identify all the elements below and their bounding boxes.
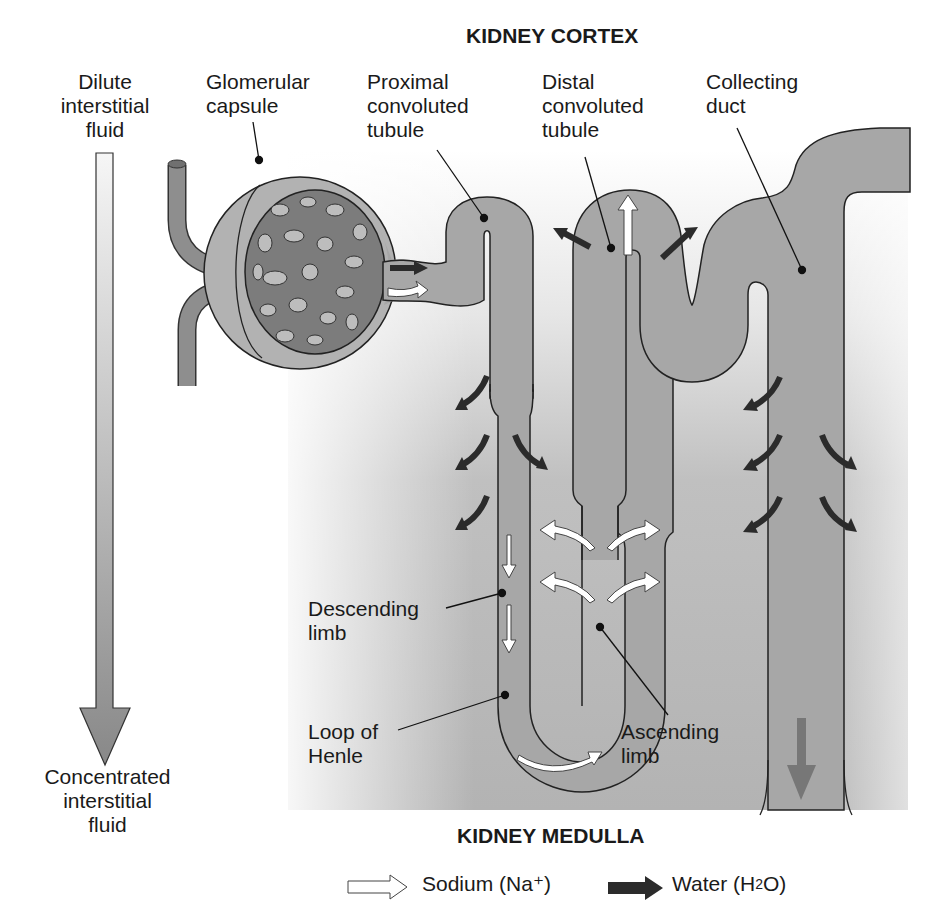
medulla-title: KIDNEY MEDULLA xyxy=(457,824,644,848)
descending-limb-label: Descending limb xyxy=(308,597,419,645)
distal-tubule-label: Distal convoluted tubule xyxy=(542,70,644,142)
loop-of-henle-label: Loop of Henle xyxy=(308,720,378,768)
legend-water: Water (H2O) xyxy=(672,872,786,896)
legend-sodium: Sodium (Na⁺) xyxy=(422,872,551,896)
cortex-title: KIDNEY CORTEX xyxy=(466,24,638,48)
proximal-tubule-label: Proximal convoluted tubule xyxy=(367,70,469,142)
dilute-fluid-label: Dilute interstitial fluid xyxy=(40,70,170,142)
collecting-duct-label: Collecting duct xyxy=(706,70,798,118)
glomerular-capsule-label: Glomerular capsule xyxy=(206,70,310,118)
ascending-limb-label: Ascending limb xyxy=(621,720,719,768)
concentrated-fluid-label: Concentrated interstitial fluid xyxy=(20,765,195,837)
